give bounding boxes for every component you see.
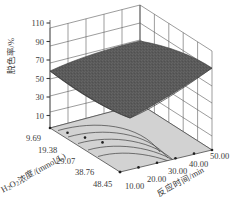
x-tick-5: 48.45 (93, 180, 112, 189)
response-surface (50, 41, 212, 118)
z-tick-70: 70 (22, 56, 44, 65)
z-tick-30: 30 (22, 93, 44, 102)
z-tick-10: 10 (22, 112, 44, 121)
x-tick-2: 19.38 (38, 146, 57, 155)
x-tick-1: 9.69 (26, 134, 41, 143)
surface-plot-figure: 110 90 70 50 30 10 脱色率/% 9.69 19.38 29.0… (0, 0, 251, 221)
z-axis-ticks (47, 23, 51, 116)
y-tick-5: 50.00 (210, 152, 229, 161)
z-tick-90: 90 (22, 38, 44, 47)
z-axis-title: 脱色率/% (7, 31, 16, 81)
z-tick-110: 110 (22, 19, 44, 28)
y-tick-1: 10.00 (125, 182, 144, 191)
z-tick-50: 50 (22, 75, 44, 84)
y-tick-2: 20.00 (147, 175, 166, 184)
x-tick-4: 38.76 (75, 168, 94, 177)
